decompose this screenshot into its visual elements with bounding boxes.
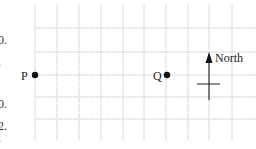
grid bbox=[35, 5, 256, 140]
arrow-up-icon bbox=[206, 52, 213, 63]
point-q-dot bbox=[164, 72, 170, 78]
point-q-label: Q bbox=[153, 69, 162, 83]
clipped-margin-text: 0. bbox=[0, 97, 7, 111]
clipped-margin-text: 2. bbox=[0, 119, 7, 133]
north-label: North bbox=[215, 51, 243, 65]
point-p-label: P bbox=[21, 69, 28, 83]
clipped-margin-text: . bbox=[0, 55, 1, 69]
compass-grid-diagram: 0..0.2.. PQ North bbox=[0, 0, 256, 149]
point-p-dot bbox=[32, 72, 38, 78]
clipped-margin-text: 0. bbox=[0, 33, 7, 47]
clipped-margin-labels: 0..0.2.. bbox=[0, 33, 7, 145]
clipped-margin-text: . bbox=[0, 131, 1, 145]
